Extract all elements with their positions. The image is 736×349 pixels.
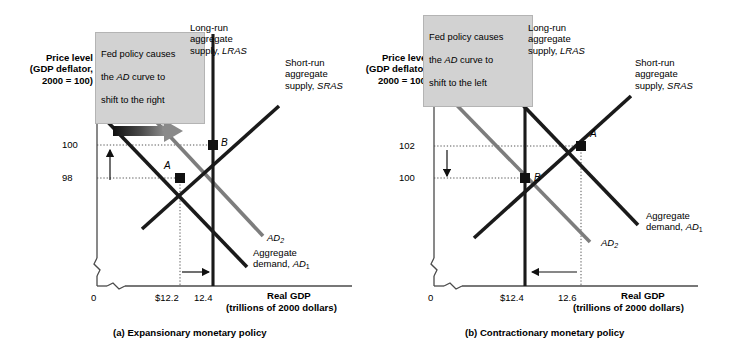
x-axis-title-line1-a: Real GDP	[267, 290, 311, 301]
lras-label-line3-a: supply, LRAS	[190, 45, 247, 56]
ad1-label-a: Aggregate demand, AD1	[253, 247, 310, 273]
lras-label-a: Long-run aggregate supply, LRAS	[190, 22, 247, 56]
y-axis-title-a: Price level (GDP deflator, 2000 = 100)	[18, 52, 93, 86]
origin-label-b: 0	[428, 292, 433, 303]
sras-label-a: Short-run aggregate supply, SRAS	[285, 57, 343, 91]
equilibrium-marker-b-b	[520, 173, 530, 183]
callout-line2-b: the AD curve to	[429, 55, 527, 67]
y-tick-98-a: 98	[62, 172, 92, 183]
lras-label-b: Long-run aggregate supply, LRAS	[528, 22, 585, 56]
callout-box-a: Fed policy causes the AD curve to shift …	[95, 32, 205, 124]
sras-label-line3-b: supply, SRAS	[635, 80, 693, 91]
equilibrium-marker-a	[175, 173, 185, 183]
ad1-label-line2-b: demand, AD1	[646, 221, 703, 235]
sras-label-line3-a: supply, SRAS	[285, 80, 343, 91]
origin-label-a: 0	[91, 292, 96, 303]
ad1-label-b: Aggregate demand, AD1	[646, 210, 703, 236]
point-label-b-a: B	[221, 137, 228, 148]
point-label-a-a: A	[164, 160, 171, 171]
equilibrium-marker-a-b	[576, 141, 586, 151]
panel-contractionary-monetary-policy: Price level (GDP deflator, 2000 = 100) F…	[368, 0, 736, 349]
point-label-b-b: B	[534, 172, 541, 183]
curve-sras-b	[474, 96, 631, 238]
ad2-label-b: AD2	[601, 237, 618, 251]
panel-expansionary-monetary-policy: Price level (GDP deflator, 2000 = 100) F…	[0, 0, 368, 349]
y-tick-100-b: 100	[399, 172, 429, 183]
sras-label-b: Short-run aggregate supply, SRAS	[635, 57, 693, 91]
point-label-a-b: A	[590, 128, 597, 139]
lras-label-line3-b: supply, LRAS	[528, 45, 585, 56]
curve-sras-a	[142, 106, 279, 229]
y-axis-title-b: Price level (GDP deflator, 2000 = 100)	[354, 52, 429, 86]
x-axis-title-line2-a: (trillions of 2000 dollars)	[226, 302, 337, 313]
x-tick-124-b: $12.4	[500, 292, 550, 303]
callout-box-b: Fed policy causes the AD curve to shift …	[423, 15, 533, 107]
curve-ad2-b	[442, 90, 590, 242]
ad1-label-line2-a: demand, AD1	[253, 258, 310, 272]
ad2-label-a: AD2	[267, 232, 284, 246]
x-axis-title-line1-b: Real GDP	[621, 290, 665, 301]
y-tick-102-b: 102	[399, 140, 429, 151]
panel-caption-b: (b) Contractionary monetary policy	[465, 327, 624, 338]
equilibrium-marker-b	[208, 140, 218, 150]
guide-lines-b	[434, 146, 581, 286]
panel-caption-a: (a) Expansionary monetary policy	[113, 327, 267, 338]
callout-line2-a: the AD curve to	[101, 72, 199, 84]
y-tick-100-a: 100	[62, 139, 92, 150]
x-axis-title-line2-b: (trillions of 2000 dollars)	[573, 302, 684, 313]
